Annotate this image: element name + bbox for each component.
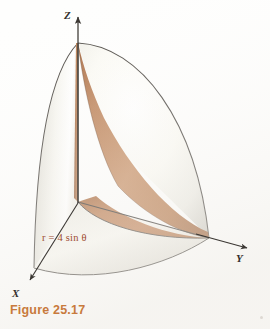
page-speck [260, 316, 263, 319]
z-axis-label: Z [64, 9, 71, 21]
figure-caption: Figure 25.17 [10, 303, 85, 317]
figure-drawing [0, 0, 270, 329]
figure-container: Z Y X r = 4 sin θ Figure 25.17 [0, 0, 270, 329]
x-axis-label: X [12, 287, 19, 299]
curve-equation-label: r = 4 sin θ [42, 232, 87, 243]
y-axis-label: Y [236, 252, 243, 264]
